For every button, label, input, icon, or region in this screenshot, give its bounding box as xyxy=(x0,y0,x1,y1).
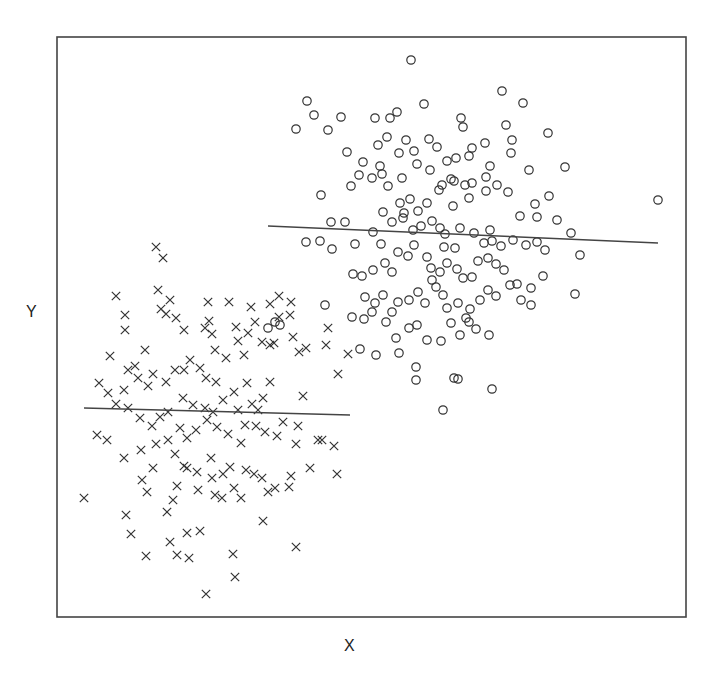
circle-marker xyxy=(359,158,367,166)
cross-marker xyxy=(208,474,216,482)
cross-marker xyxy=(149,370,157,378)
cross-marker xyxy=(194,486,202,494)
circle-marker xyxy=(417,222,425,230)
circle-marker xyxy=(482,173,490,181)
cross-marker xyxy=(287,298,295,306)
circle-marker xyxy=(392,334,400,342)
circle-marker xyxy=(412,376,420,384)
cross-marker xyxy=(285,483,293,491)
circle-marker xyxy=(341,218,349,226)
circle-marker xyxy=(327,218,335,226)
cross-marker xyxy=(106,352,114,360)
cross-marker xyxy=(121,311,129,319)
cross-marker xyxy=(173,551,181,559)
cross-marker xyxy=(183,529,191,537)
cross-marker xyxy=(149,464,157,472)
circle-marker xyxy=(402,136,410,144)
cross-marker xyxy=(232,323,240,331)
circle-marker xyxy=(356,345,364,353)
cross-marker xyxy=(180,326,188,334)
series-layer xyxy=(80,56,662,598)
circle-marker xyxy=(421,299,429,307)
circle-marker xyxy=(264,324,272,332)
circle-marker xyxy=(426,166,434,174)
circle-marker xyxy=(449,202,457,210)
cross-marker xyxy=(112,400,120,408)
cross-marker xyxy=(344,350,352,358)
circle-marker xyxy=(371,299,379,307)
cross-marker xyxy=(142,552,150,560)
cross-marker xyxy=(242,466,250,474)
circle-marker xyxy=(480,239,488,247)
cross-marker xyxy=(275,292,283,300)
circle-marker xyxy=(507,149,515,157)
circle-marker xyxy=(347,182,355,190)
circle-marker xyxy=(539,272,547,280)
circle-marker xyxy=(399,214,407,222)
circle-marker xyxy=(576,251,584,259)
circle-marker xyxy=(407,56,415,64)
cross-marker xyxy=(286,311,294,319)
circle-marker xyxy=(423,253,431,261)
circle-marker xyxy=(476,296,484,304)
circle-marker xyxy=(468,144,476,152)
cross-marker xyxy=(163,508,171,516)
circle-marker xyxy=(451,244,459,252)
circle-marker xyxy=(384,182,392,190)
circle-marker xyxy=(443,304,451,312)
y-axis-label: Y xyxy=(26,303,37,321)
circle-marker xyxy=(493,181,501,189)
circle-marker xyxy=(456,224,464,232)
circle-marker xyxy=(439,291,447,299)
circle-marker xyxy=(500,266,508,274)
cross-marker xyxy=(202,590,210,598)
circle-marker xyxy=(561,163,569,171)
circle-marker xyxy=(405,324,413,332)
cross-marker xyxy=(294,422,302,430)
circle-marker xyxy=(369,266,377,274)
cross-marker xyxy=(127,530,135,538)
circle-marker xyxy=(414,207,422,215)
cross-marker xyxy=(162,378,170,386)
circle-marker xyxy=(465,194,473,202)
circle-marker xyxy=(394,248,402,256)
circle-marker xyxy=(443,157,451,165)
cross-marker xyxy=(324,324,332,332)
circle-marker xyxy=(504,188,512,196)
regression-line-group-circles xyxy=(268,226,658,243)
circle-marker xyxy=(508,136,516,144)
cross-marker xyxy=(266,341,274,349)
cross-marker xyxy=(196,364,204,372)
cross-marker xyxy=(120,386,128,394)
circle-marker xyxy=(436,268,444,276)
circle-marker xyxy=(482,187,490,195)
cross-marker xyxy=(230,388,238,396)
cross-marker xyxy=(134,374,142,382)
cross-marker xyxy=(152,440,160,448)
cross-marker xyxy=(136,414,144,422)
cross-marker xyxy=(224,430,232,438)
circle-marker xyxy=(485,331,493,339)
circle-marker xyxy=(502,121,510,129)
cross-marker xyxy=(261,428,269,436)
cross-marker xyxy=(154,286,162,294)
cross-marker xyxy=(104,389,112,397)
circle-marker xyxy=(519,99,527,107)
circle-marker xyxy=(368,174,376,182)
cross-marker xyxy=(259,394,267,402)
cross-marker xyxy=(251,318,259,326)
cross-marker xyxy=(192,426,200,434)
cross-marker xyxy=(164,436,172,444)
cross-marker xyxy=(143,488,151,496)
cross-marker xyxy=(330,442,338,450)
cross-marker xyxy=(289,333,297,341)
cross-marker xyxy=(162,310,170,318)
circle-marker xyxy=(321,301,329,309)
circle-marker xyxy=(527,284,535,292)
cross-marker xyxy=(95,379,103,387)
cross-marker xyxy=(166,538,174,546)
circle-marker xyxy=(343,148,351,156)
cross-marker xyxy=(196,527,204,535)
circle-marker xyxy=(447,319,455,327)
circle-marker xyxy=(413,321,421,329)
